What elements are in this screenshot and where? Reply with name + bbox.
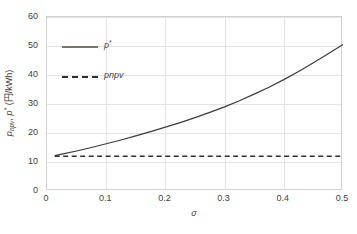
legend-label-pstar: p*: [104, 40, 112, 50]
x-tick-label: 0.5: [322, 194, 357, 203]
x-tick-label: 0.1: [85, 194, 125, 203]
y-tick-label: 10: [4, 157, 38, 166]
x-tick-label: 0: [26, 194, 66, 203]
legend-swatch-pstar: [62, 46, 98, 48]
chart-figure: pnpv, p* (円/kWh) 0102030405060 p* pnpv 0…: [0, 0, 357, 234]
legend-entry-pstar: p*: [62, 40, 182, 70]
legend-entry-pnpv: pnpv: [62, 70, 182, 100]
y-tick-label: 40: [4, 70, 38, 79]
chart-legend: p* pnpv: [62, 40, 182, 100]
x-tick-label: 0.2: [144, 194, 184, 203]
legend-swatch-pnpv: [62, 76, 98, 78]
x-tick-label: 0.3: [204, 194, 244, 203]
x-axis-title: σ: [46, 208, 342, 218]
legend-label-pnpv: pnpv: [104, 70, 124, 80]
y-tick-label: 60: [4, 12, 38, 21]
y-tick-label: 30: [4, 99, 38, 108]
y-tick-label: 20: [4, 128, 38, 137]
y-tick-label: 50: [4, 41, 38, 50]
y-axis-var-pstar: p*: [4, 108, 14, 116]
x-tick-label: 0.4: [263, 194, 303, 203]
